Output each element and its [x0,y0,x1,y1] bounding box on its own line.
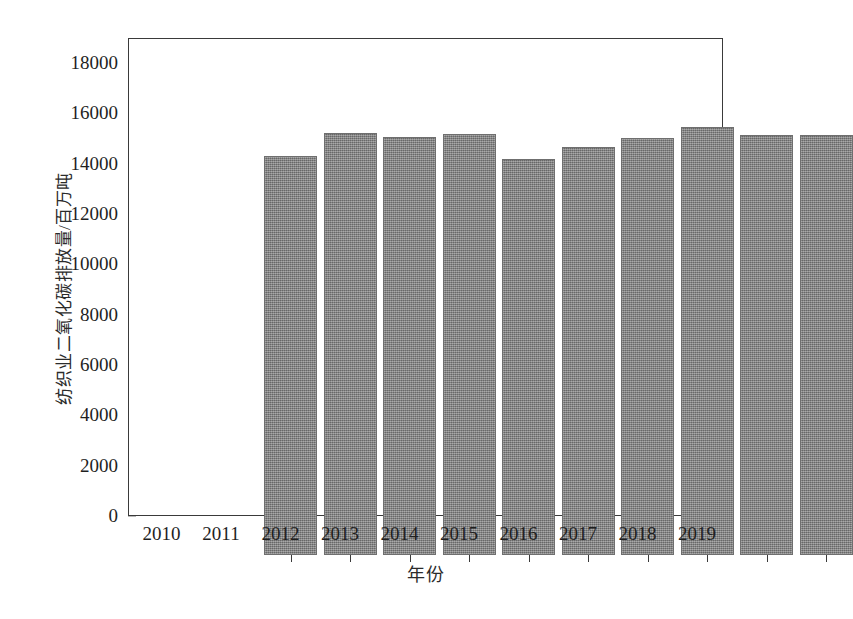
y-tick-label: 4000 [0,404,118,426]
bar[interactable] [800,135,853,555]
bar[interactable] [264,156,317,556]
y-tick-label: 18000 [0,52,118,74]
bar-slot [800,77,853,555]
bar-slot [740,77,793,555]
bar-slot [502,77,555,555]
bar[interactable] [740,135,793,555]
bar-slot [324,77,377,555]
x-tick-mark [826,555,827,562]
x-tick-mark [767,555,768,562]
y-tick-label: 16000 [0,102,118,124]
x-tick-label: 2019 [662,523,732,545]
y-tick-label: 14000 [0,153,118,175]
x-axis-tick-labels: 2010201120122013201420152016201720182019 [128,523,723,551]
bar-slot [383,77,436,555]
bar[interactable] [562,147,615,555]
bar[interactable] [383,137,436,555]
y-tick-label: 12000 [0,203,118,225]
bar-slot [681,77,734,555]
bar[interactable] [324,133,377,555]
y-tick-label: 10000 [0,253,118,275]
bar-series [257,77,852,555]
bar[interactable] [681,127,734,555]
plot-area [128,38,723,516]
figure-caption [100,611,660,619]
y-tick-label: 0 [0,505,118,527]
bar[interactable] [621,138,674,555]
y-tick-label: 6000 [0,354,118,376]
bar-slot [562,77,615,555]
bar-slot [621,77,674,555]
y-tick-label: 8000 [0,304,118,326]
bar-slot [443,77,496,555]
x-axis-title: 年份 [128,560,723,586]
bar[interactable] [443,134,496,555]
bar[interactable] [502,159,555,555]
bar-slot [264,77,317,555]
y-tick-label: 2000 [0,455,118,477]
